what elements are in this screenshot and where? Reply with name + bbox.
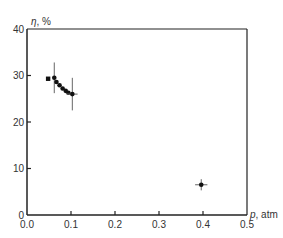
x-tick-label: 0.4: [196, 219, 210, 230]
circle-marker: [70, 92, 75, 97]
data-point: [195, 179, 207, 190]
x-axis-label: p, atm: [249, 209, 278, 220]
data-points: [46, 62, 207, 190]
circle-marker: [52, 76, 57, 81]
square-marker: [46, 77, 50, 81]
data-point: [52, 62, 57, 93]
x-tick-label: 0.0: [20, 219, 34, 230]
y-tick-label: 30: [13, 70, 25, 81]
plot-frame: [27, 29, 247, 215]
x-tick-label: 0.5: [240, 219, 254, 230]
y-tick-label: 20: [13, 117, 25, 128]
y-ticks: 010203040: [13, 24, 31, 221]
y-tick-label: 0: [18, 210, 24, 221]
x-tick-label: 0.2: [108, 219, 122, 230]
x-tick-label: 0.3: [152, 219, 166, 230]
data-point: [67, 78, 78, 111]
chart: 0.00.10.20.30.40.5 010203040 η, % p, atm: [0, 0, 283, 238]
y-tick-label: 10: [13, 163, 25, 174]
circle-marker: [199, 182, 204, 187]
data-point: [46, 77, 50, 81]
y-axis-label: η, %: [31, 16, 51, 27]
x-ticks: 0.00.10.20.30.40.5: [20, 211, 254, 230]
y-tick-label: 40: [13, 24, 25, 35]
x-tick-label: 0.1: [64, 219, 78, 230]
